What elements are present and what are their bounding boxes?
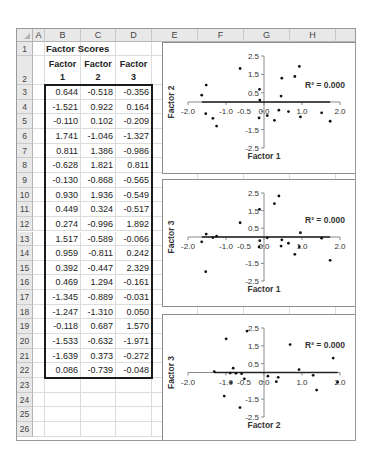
column-header-a[interactable]: A [33,29,45,42]
row-header-7[interactable]: 7 [17,144,33,159]
score-cell[interactable]: 0.373 [81,349,116,364]
data-point[interactable] [312,374,315,377]
data-point[interactable] [215,125,218,128]
data-point[interactable] [332,357,335,360]
cell[interactable] [116,407,152,422]
score-cell[interactable]: -0.632 [81,334,116,349]
score-cell[interactable]: 0.469 [45,275,81,290]
column-header-h[interactable]: H [290,29,336,42]
data-point[interactable] [225,337,228,340]
score-cell[interactable]: 0.687 [81,319,116,334]
data-point[interactable] [329,259,332,262]
cell[interactable] [33,158,45,173]
score-cell[interactable]: 0.050 [116,305,152,320]
data-point[interactable] [287,110,290,113]
score-cell[interactable]: -0.356 [116,85,152,100]
factor-header-cell[interactable]: Factor1 [45,56,81,85]
column-header-e[interactable]: E [152,29,198,42]
score-cell[interactable]: -0.517 [116,202,152,217]
data-point[interactable] [287,242,290,245]
cell[interactable] [33,232,45,247]
data-point[interactable] [280,245,283,248]
score-cell[interactable]: 0.644 [45,85,81,100]
score-cell[interactable]: -1.639 [45,349,81,364]
score-cell[interactable]: 2.329 [116,261,152,276]
score-cell[interactable]: -1.046 [81,129,116,144]
data-point[interactable] [200,240,203,243]
cell[interactable] [33,305,45,320]
score-cell[interactable]: 1.892 [116,217,152,232]
score-cell[interactable]: -0.272 [116,349,152,364]
row-header-26[interactable]: 26 [17,422,33,437]
score-cell[interactable]: -0.549 [116,188,152,203]
data-point[interactable] [336,381,339,384]
cell[interactable] [45,407,81,422]
data-point[interactable] [204,270,207,273]
data-point[interactable] [299,231,302,234]
data-point[interactable] [229,372,232,375]
factor-header-cell[interactable]: Factor2 [81,56,116,85]
cell[interactable] [33,334,45,349]
data-point[interactable] [280,238,283,241]
row-header-11[interactable]: 11 [17,202,33,217]
cell[interactable] [45,393,81,408]
data-point[interactable] [280,77,283,80]
data-point[interactable] [205,233,208,236]
score-cell[interactable]: -0.066 [116,232,152,247]
column-header-d[interactable]: D [116,29,152,42]
cell[interactable] [33,114,45,129]
score-cell[interactable]: -0.868 [81,173,116,188]
score-cell[interactable]: 0.242 [116,246,152,261]
score-cell[interactable]: 1.386 [81,144,116,159]
data-point[interactable] [280,95,283,98]
row-header-22[interactable]: 22 [17,363,33,378]
data-point[interactable] [243,377,246,380]
row-header-24[interactable]: 24 [17,393,33,408]
data-point[interactable] [329,120,332,123]
column-header-c[interactable]: C [81,29,116,42]
data-point[interactable] [320,237,323,240]
row-header-13[interactable]: 13 [17,232,33,247]
score-cell[interactable]: -0.161 [116,275,152,290]
cell[interactable] [33,188,45,203]
row-header-10[interactable]: 10 [17,188,33,203]
cell[interactable] [33,246,45,261]
data-point[interactable] [258,239,261,242]
column-header-partial[interactable] [336,29,356,42]
cell[interactable] [33,202,45,217]
row-header-17[interactable]: 17 [17,290,33,305]
cell[interactable] [33,85,45,100]
row-header-23[interactable]: 23 [17,378,33,393]
column-header-b[interactable]: B [45,29,81,42]
data-point[interactable] [205,84,208,87]
cell[interactable] [45,378,81,393]
row-header-6[interactable]: 6 [17,129,33,144]
score-cell[interactable]: -1.247 [45,305,81,320]
row-header-9[interactable]: 9 [17,173,33,188]
cell[interactable] [33,129,45,144]
data-point[interactable] [299,116,302,119]
row-header-25[interactable]: 25 [17,407,33,422]
score-cell[interactable]: -0.996 [81,217,116,232]
sheet-title-cell[interactable]: Factor Scores [45,42,81,56]
row-header-15[interactable]: 15 [17,261,33,276]
data-point[interactable] [266,114,269,117]
data-point[interactable] [273,202,276,205]
data-point[interactable] [239,406,242,409]
cell[interactable] [116,42,152,56]
row-header-12[interactable]: 12 [17,217,33,232]
score-cell[interactable]: 1.741 [45,129,81,144]
data-point[interactable] [235,372,238,375]
data-point[interactable] [298,368,301,371]
row-header-20[interactable]: 20 [17,334,33,349]
score-cell[interactable]: -1.345 [45,290,81,305]
scatter-chart-2[interactable]: -2.0-1.00.01.02.0-0.52.51.50.5-1.5-2.5Fa… [162,179,356,307]
score-cell[interactable]: 0.164 [116,100,152,115]
cell[interactable] [33,217,45,232]
data-point[interactable] [266,236,269,239]
data-point[interactable] [258,88,261,91]
score-cell[interactable]: 1.936 [81,188,116,203]
score-cell[interactable]: 0.086 [45,363,81,378]
data-point[interactable] [293,75,296,78]
score-cell[interactable]: -1.521 [45,100,81,115]
